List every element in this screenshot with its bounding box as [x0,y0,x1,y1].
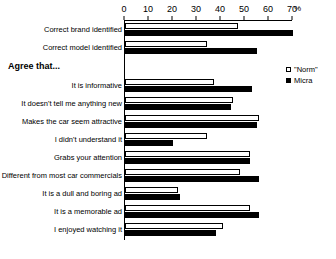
category-label: Correct model identified [43,43,122,52]
bar-norm [125,79,214,85]
bar-micra [125,140,173,146]
bar-norm [125,41,207,47]
bar-micra [125,122,257,128]
x-axis-tick [172,16,173,20]
chart-row: It is a memorable ad [0,204,336,222]
x-axis-tick-label: 20 [167,4,177,14]
category-label: Correct brand identified [44,25,122,34]
bar-micra [125,194,180,200]
x-axis-unit-label: % [294,4,301,13]
section-header-agree-that: Agree that... [8,61,60,72]
chart-legend: "Norm"Micra [286,64,318,86]
chart-row: Correct model identified [0,40,336,58]
chart-row: It doesn't tell me anything new [0,96,336,114]
bar-norm [125,187,178,193]
x-axis-tick [124,16,125,20]
bar-norm [125,223,223,229]
x-axis-tick-label: 10 [143,4,153,14]
bar-chart: 010203040506070 % Correct brand identifi… [0,0,336,259]
x-axis-tick [220,16,221,20]
bar-norm [125,115,259,121]
chart-row: I enjoyed watching it [0,222,336,240]
chart-row: I didn't understand it [0,132,336,150]
hollow-square-icon [286,67,291,72]
x-axis-tick [244,16,245,20]
x-axis-tick [148,16,149,20]
category-label: It is a dull and boring ad [42,189,122,198]
category-label: Different from most car commercials [2,171,122,180]
x-axis-tick-label: 30 [191,4,201,14]
filled-square-icon [286,78,291,83]
bar-micra [125,104,231,110]
category-label: I didn't understand it [55,135,122,144]
category-label: It doesn't tell me anything new [21,99,122,108]
chart-row: Grabs your attention [0,150,336,168]
chart-row: Makes the car seem attractive [0,114,336,132]
bar-norm [125,169,240,175]
category-label: It is informative [72,81,122,90]
bar-norm [125,151,250,157]
x-axis-tick [292,16,293,20]
x-axis-tick [196,16,197,20]
bar-norm [125,133,207,139]
chart-row: It is a dull and boring ad [0,186,336,204]
legend-label: Micra [294,75,312,86]
bar-norm [125,97,233,103]
category-label: Grabs your attention [54,153,122,162]
x-axis-tick-label: 0 [121,4,126,14]
bar-micra [125,86,252,92]
category-label: Makes the car seem attractive [22,117,122,126]
chart-row: Correct brand identified [0,22,336,40]
legend-item: "Norm" [286,64,318,75]
bar-micra [125,30,293,36]
bar-micra [125,212,259,218]
x-axis-tick-label: 40 [215,4,225,14]
bar-micra [125,176,259,182]
bar-micra [125,230,216,236]
bar-micra [125,158,250,164]
x-axis-tick [268,16,269,20]
bar-norm [125,23,238,29]
x-axis-tick-label: 50 [239,4,249,14]
category-label: I enjoyed watching it [54,225,122,234]
legend-label: "Norm" [294,64,318,75]
x-axis-line [124,20,292,21]
x-axis-tick-label: 60 [263,4,273,14]
legend-item: Micra [286,75,318,86]
chart-row: Different from most car commercials [0,168,336,186]
category-label: It is a memorable ad [54,207,122,216]
bar-norm [125,205,250,211]
bar-micra [125,48,257,54]
